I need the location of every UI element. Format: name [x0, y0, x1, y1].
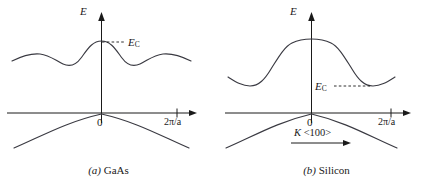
ec-label-silicon-sub: C	[322, 84, 327, 93]
gaas-plot-svg	[0, 0, 217, 160]
y-axis-label-gaas: E	[80, 6, 87, 17]
caption-silicon: (b) Silicon	[218, 164, 435, 176]
caption-silicon-text: Silicon	[316, 164, 350, 176]
origin-label-gaas: 0	[97, 117, 103, 128]
band-structure-figure: E 0 2π/a EC (a) GaAs	[0, 0, 435, 182]
caption-gaas-enum: (a)	[88, 164, 101, 176]
ec-label-gaas: EC	[128, 37, 140, 49]
x-tick-label-silicon: 2π/a	[378, 117, 395, 127]
k-direction-label-dir: <100>	[301, 127, 331, 138]
y-axis-label-silicon: E	[290, 6, 297, 17]
y-axis-silicon	[308, 12, 315, 123]
panel-silicon: E 0 2π/a EC K <100> (b) Silicon	[218, 0, 435, 182]
ec-label-gaas-sub: C	[135, 40, 140, 49]
k-direction-arrow-icon	[291, 140, 351, 146]
x-tick-label-gaas: 2π/a	[164, 117, 181, 127]
ec-label-silicon: EC	[315, 81, 327, 93]
ec-label-gaas-base: E	[128, 36, 135, 48]
caption-silicon-enum: (b)	[303, 164, 316, 176]
k-direction-label-var: K	[294, 127, 301, 138]
y-axis-gaas	[98, 12, 105, 123]
caption-gaas-text: GaAs	[101, 164, 129, 176]
ec-label-silicon-base: E	[315, 80, 322, 92]
panel-gaas: E 0 2π/a EC (a) GaAs	[0, 0, 217, 182]
caption-gaas: (a) GaAs	[0, 164, 217, 176]
k-direction-label: K <100>	[294, 128, 331, 139]
